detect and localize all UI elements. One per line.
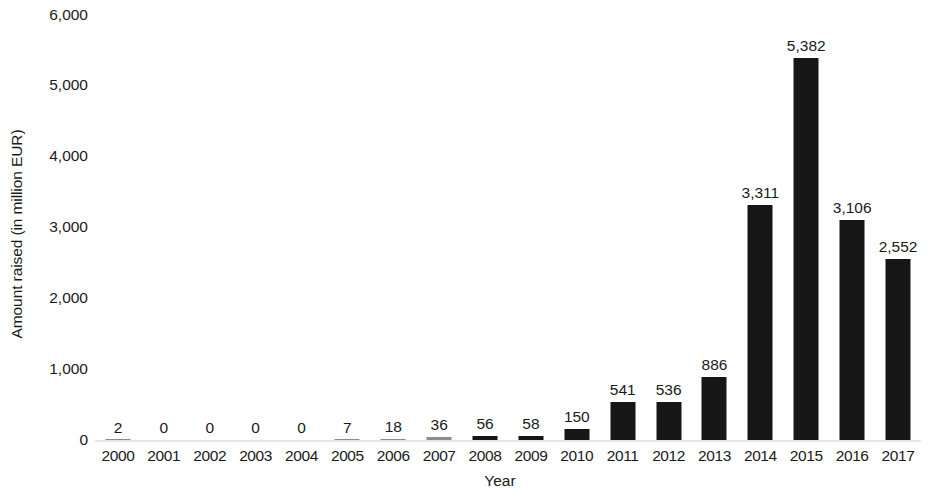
bar[interactable] <box>381 439 406 441</box>
bar-slot[interactable]: 58 <box>508 6 554 441</box>
bar-slot[interactable]: 3,106 <box>829 6 875 441</box>
bar-chart: Amount raised (in million EUR) 01,0002,0… <box>0 0 929 497</box>
bar[interactable] <box>427 437 452 440</box>
bar-value-label: 0 <box>251 419 260 436</box>
x-axis-tick-label: 2003 <box>233 446 279 465</box>
bar-value-label: 541 <box>610 381 636 398</box>
bar[interactable] <box>794 58 819 440</box>
bar-slot[interactable]: 0 <box>141 6 187 441</box>
y-axis-tick-label: 2,000 <box>16 290 88 306</box>
bar-value-label: 0 <box>205 419 214 436</box>
bar-value-label: 2 <box>114 419 123 436</box>
y-axis-tick-label: 1,000 <box>16 361 88 377</box>
bar-value-label: 0 <box>160 419 169 436</box>
bar-value-label: 7 <box>343 419 352 436</box>
bar-value-label: 3,311 <box>742 184 780 201</box>
y-axis-tick-label: 6,000 <box>16 7 88 23</box>
bar[interactable] <box>702 377 727 440</box>
bar-slot[interactable]: 5,382 <box>783 6 829 441</box>
bar[interactable] <box>518 436 543 440</box>
bar-slot[interactable]: 536 <box>646 6 692 441</box>
bar[interactable] <box>473 436 498 440</box>
x-axis-tick-label: 2012 <box>646 446 692 465</box>
x-axis-tick-label: 2013 <box>692 446 738 465</box>
y-axis-tick-label: 5,000 <box>16 77 88 93</box>
x-axis-tick-label: 2017 <box>875 446 921 465</box>
plot-area: 200007183656581505415368863,3115,3823,10… <box>95 6 921 441</box>
y-axis-tick-label: 0 <box>16 432 88 448</box>
bar-slot[interactable]: 56 <box>462 6 508 441</box>
x-axis-tick-label: 2015 <box>783 446 829 465</box>
bar-value-label: 18 <box>385 418 402 435</box>
y-axis-tick-label: 4,000 <box>16 148 88 164</box>
x-axis-tick-label: 2002 <box>187 446 233 465</box>
bar-value-label: 56 <box>476 415 493 432</box>
x-axis-tick-labels: 2000200120022003200420052006200720082009… <box>95 446 921 466</box>
bar-value-label: 150 <box>564 408 590 425</box>
bar[interactable] <box>105 439 130 441</box>
x-axis-tick-label: 2005 <box>324 446 370 465</box>
bar-slot[interactable]: 886 <box>692 6 738 441</box>
x-axis-tick-label: 2016 <box>829 446 875 465</box>
bar[interactable] <box>564 429 589 440</box>
bar-value-label: 36 <box>431 416 448 433</box>
bar[interactable] <box>886 259 911 440</box>
bar-slot[interactable]: 0 <box>187 6 233 441</box>
bar-value-label: 0 <box>297 419 306 436</box>
bar-slot[interactable]: 7 <box>324 6 370 441</box>
bar-value-label: 536 <box>656 381 682 398</box>
bar-slot[interactable]: 150 <box>554 6 600 441</box>
x-axis-tick-label: 2004 <box>279 446 325 465</box>
bar-value-label: 58 <box>522 415 539 432</box>
bar[interactable] <box>656 402 681 440</box>
x-axis-tick-label: 2007 <box>416 446 462 465</box>
bar-value-label: 2,552 <box>879 238 918 255</box>
x-axis-tick-label: 2009 <box>508 446 554 465</box>
bar-slot[interactable]: 18 <box>370 6 416 441</box>
x-axis-tick-label: 2001 <box>141 446 187 465</box>
bar-slot[interactable]: 0 <box>233 6 279 441</box>
bar-slot[interactable]: 36 <box>416 6 462 441</box>
x-axis-tick-label: 2008 <box>462 446 508 465</box>
y-axis-tick-labels: 01,0002,0003,0004,0005,0006,000 <box>10 0 88 497</box>
x-axis-tick-label: 2011 <box>600 446 646 465</box>
bar-slot[interactable]: 3,311 <box>737 6 783 441</box>
bar-slot[interactable]: 0 <box>279 6 325 441</box>
bar[interactable] <box>840 220 865 440</box>
bar-slot[interactable]: 541 <box>600 6 646 441</box>
x-axis-tick-label: 2010 <box>554 446 600 465</box>
bar-slot[interactable]: 2,552 <box>875 6 921 441</box>
bar[interactable] <box>335 439 360 441</box>
bar[interactable] <box>748 205 773 440</box>
bar-value-label: 3,106 <box>833 199 872 216</box>
bar-value-label: 5,382 <box>787 37 826 54</box>
y-axis-tick-label: 3,000 <box>16 219 88 235</box>
x-axis-tick-label: 2006 <box>370 446 416 465</box>
bar-slot[interactable]: 2 <box>95 6 141 441</box>
bar-value-label: 886 <box>702 356 728 373</box>
x-axis-tick-label: 2014 <box>737 446 783 465</box>
x-axis-tick-label: 2000 <box>95 446 141 465</box>
x-axis-title: Year <box>0 472 929 490</box>
bar[interactable] <box>610 402 635 440</box>
